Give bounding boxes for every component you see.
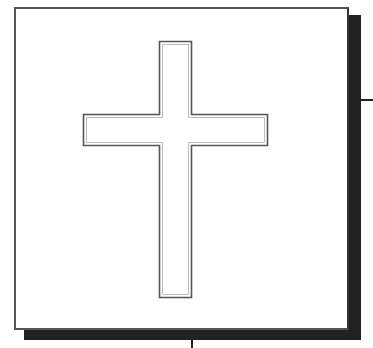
tick-mark-bottom (191, 340, 193, 348)
cross-icon (0, 0, 373, 348)
tick-mark-right (361, 99, 373, 101)
cross-outer-outline (84, 42, 268, 298)
